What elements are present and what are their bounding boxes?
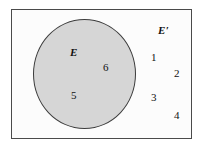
outcome-outside-4: 4 [174, 110, 180, 121]
outcome-inside-5: 5 [71, 90, 77, 101]
set-e-complement-label: E′ [158, 25, 169, 36]
outcome-inside-6: 6 [103, 62, 109, 73]
outcome-outside-2: 2 [174, 68, 180, 79]
set-e-label: E [70, 47, 78, 58]
outcome-outside-1: 1 [151, 52, 157, 63]
venn-diagram-figure: E E′ 6 5 1 2 3 4 [0, 0, 204, 149]
outcome-outside-3: 3 [151, 92, 157, 103]
set-e-circle [33, 19, 136, 129]
